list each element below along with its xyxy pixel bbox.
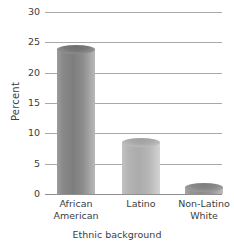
x-axis-category-label: Non-Latino White xyxy=(164,198,234,221)
bar-body xyxy=(122,142,160,194)
bar xyxy=(122,138,160,194)
bar xyxy=(185,183,223,194)
bar xyxy=(57,45,95,194)
gridline xyxy=(45,42,222,43)
y-axis-tick-label: 25 xyxy=(16,37,40,47)
y-axis-tick-label: 5 xyxy=(16,159,40,169)
gridline xyxy=(45,194,222,195)
x-axis-title: Ethnic background xyxy=(0,229,234,240)
bar-body xyxy=(57,49,95,194)
y-axis-tick-label: 30 xyxy=(16,7,40,17)
bar-top-ellipse xyxy=(122,138,160,147)
bar-chart: Percent Ethnic background 051015202530Af… xyxy=(0,0,234,245)
plot-area xyxy=(45,12,222,194)
y-axis-tick-label: 10 xyxy=(16,128,40,138)
y-axis-tick-label: 20 xyxy=(16,68,40,78)
gridline xyxy=(45,12,222,13)
y-axis-tick-label: 15 xyxy=(16,98,40,108)
